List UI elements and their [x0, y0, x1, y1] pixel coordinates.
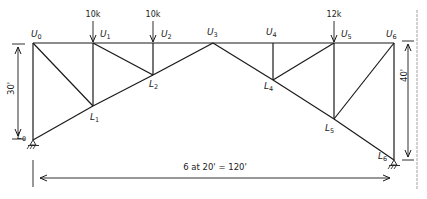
- load-label-U5: 12k: [327, 10, 342, 19]
- member-L5-U6: [334, 43, 394, 119]
- pin-support-L0: [27, 140, 39, 149]
- node-label-U0: U0: [31, 29, 42, 41]
- member-L4-L5: [273, 80, 334, 119]
- member-L4-U5: [273, 43, 334, 80]
- node-label-U4: U4: [266, 27, 277, 39]
- node-label-U1: U1: [100, 29, 111, 41]
- span-dimension: 6 at 20' = 120': [33, 160, 390, 187]
- member-U3-L4: [213, 43, 273, 80]
- member-L2-U3: [153, 43, 213, 75]
- truss-members: [33, 43, 394, 160]
- node-label-U5: U5: [341, 29, 352, 41]
- node-label-L2: L2: [149, 79, 158, 91]
- load-label-U2: 10k: [146, 10, 161, 19]
- member-U0-L1: [33, 43, 93, 106]
- node-label-U6: U6: [386, 29, 397, 41]
- member-L1-L2: [93, 75, 153, 106]
- node-label-U3: U3: [207, 27, 218, 39]
- node-label-L4: L4: [264, 81, 273, 93]
- node-labels: U0U1U2U3U4U5U6L0L1L2L4L5L6: [17, 27, 397, 163]
- node-label-L6: L6: [378, 151, 387, 163]
- node-label-U2: U2: [161, 29, 172, 41]
- right-height-dimension: 40': [399, 10, 417, 190]
- right-height-label: 40': [399, 69, 409, 82]
- truss-diagram: 10k10k12k U0U1U2U3U4U5U6L0L1L2L4L5L6 30'…: [0, 0, 427, 199]
- pin-support-L6: [388, 160, 400, 169]
- left-height-dimension: 30': [6, 44, 25, 139]
- span-label: 6 at 20' = 120': [183, 162, 247, 172]
- member-L0-L1: [33, 106, 93, 140]
- load-label-U1: 10k: [86, 10, 101, 19]
- node-label-L1: L1: [90, 112, 99, 124]
- left-height-label: 30': [6, 82, 16, 95]
- member-L5-L6: [334, 119, 394, 160]
- node-label-L5: L5: [325, 123, 334, 135]
- member-U1-L2: [93, 43, 153, 75]
